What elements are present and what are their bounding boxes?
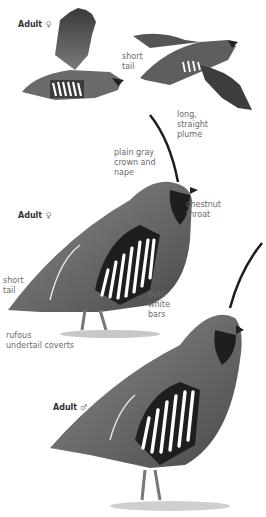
annotation-short-tail-top: short tail	[122, 52, 143, 72]
age-label: Adult	[53, 403, 77, 412]
female-symbol-icon: ♀	[45, 211, 51, 220]
quail-illustrations	[0, 0, 266, 517]
age-label: Adult	[18, 211, 42, 220]
male-symbol-icon: ♂	[80, 403, 87, 412]
annotation-crown: plain gray crown and nape	[114, 148, 156, 178]
flying-right-bird	[133, 34, 252, 110]
annotation-undertail: rufous undertail coverts	[6, 331, 74, 351]
age-label: Adult	[18, 20, 42, 29]
figure-label-flying-female: Adult♀	[18, 20, 51, 29]
annotation-bars: bold white bars	[148, 290, 170, 320]
illustration-plate: Adult♀ Adult♀ Adult♂ short tail long, st…	[0, 0, 266, 517]
figure-label-standing-female: Adult♀	[18, 211, 51, 220]
annotation-throat: chestnut throat	[186, 200, 221, 220]
annotation-plume: long, straight plume	[177, 110, 208, 140]
annotation-short-tail-mid: short tail	[3, 276, 24, 296]
figure-label-standing-male: Adult♂	[53, 403, 87, 412]
female-symbol-icon: ♀	[45, 20, 51, 29]
